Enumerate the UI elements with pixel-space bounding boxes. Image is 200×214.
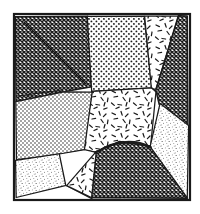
regions-layer [16, 16, 189, 199]
region-left-fine-dots [16, 92, 92, 160]
region-top-center-dots [87, 16, 151, 91]
figure-container: Hand-drawn tessellated pattern plate [0, 0, 200, 214]
pattern-plate-illustration [0, 0, 200, 214]
